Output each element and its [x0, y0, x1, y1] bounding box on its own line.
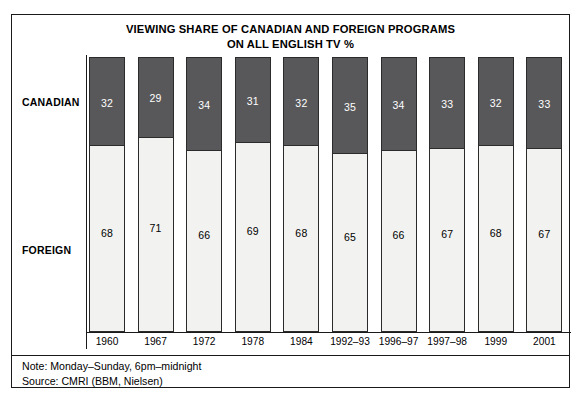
- bar-value-label: 67: [441, 228, 453, 240]
- bar-value-label: 32: [295, 97, 307, 109]
- bar-segment-foreign[interactable]: 68: [283, 146, 319, 332]
- x-axis-tick-label: 1972: [180, 336, 228, 347]
- bar-value-label: 32: [101, 97, 113, 109]
- bar-value-label: 68: [490, 227, 502, 239]
- bar-segment-canadian[interactable]: 29: [138, 57, 174, 138]
- series-label-canadian: CANADIAN: [22, 96, 80, 108]
- x-axis-tick-label: 1996–97: [375, 336, 423, 347]
- bar-segment-foreign[interactable]: 68: [89, 146, 125, 332]
- x-axis-tick-label: 1999: [472, 336, 520, 347]
- x-axis-tick-label: 1997–98: [423, 336, 471, 347]
- chart-frame: VIEWING SHARE OF CANADIAN AND FOREIGN PR…: [11, 14, 570, 388]
- series-label-foreign: FOREIGN: [22, 244, 71, 256]
- bar-segment-foreign[interactable]: 67: [429, 149, 465, 332]
- bar-segment-canadian[interactable]: 34: [381, 57, 417, 151]
- footer-divider: [12, 355, 569, 356]
- bar-value-label: 69: [247, 225, 259, 237]
- footer-source: Source: CMRI (BBM, Nielsen): [22, 374, 201, 389]
- bar-value-label: 68: [295, 227, 307, 239]
- bar-value-label: 34: [393, 99, 405, 111]
- x-axis-tick-label: 2001: [520, 336, 568, 347]
- x-axis-tick-label: 1960: [83, 336, 131, 347]
- x-axis-tick-label: 1967: [132, 336, 180, 347]
- bar-segment-canadian[interactable]: 32: [283, 57, 319, 146]
- bar-column[interactable]: 2971: [138, 57, 174, 332]
- y-axis-line: [86, 55, 87, 349]
- bar-column[interactable]: 3367: [526, 57, 562, 332]
- bar-column[interactable]: 3268: [478, 57, 514, 332]
- chart-title-line-2: ON ALL ENGLISH TV %: [12, 37, 569, 52]
- bar-segment-foreign[interactable]: 67: [526, 149, 562, 332]
- bar-column[interactable]: 3565: [332, 57, 368, 332]
- bar-value-label: 32: [490, 97, 502, 109]
- x-axis-tick-label: 1978: [229, 336, 277, 347]
- bar-column[interactable]: 3268: [89, 57, 125, 332]
- bar-segment-canadian[interactable]: 32: [478, 57, 514, 146]
- bar-value-label: 29: [150, 92, 162, 104]
- bar-column[interactable]: 3367: [429, 57, 465, 332]
- footer-notes: Note: Monday–Sunday, 6pm–midnight Source…: [22, 359, 201, 388]
- bar-value-label: 66: [198, 229, 210, 241]
- bar-segment-canadian[interactable]: 35: [332, 57, 368, 154]
- bar-value-label: 67: [538, 228, 550, 240]
- bar-value-label: 34: [198, 99, 210, 111]
- bar-value-label: 35: [344, 101, 356, 113]
- chart-title-line-1: VIEWING SHARE OF CANADIAN AND FOREIGN PR…: [12, 22, 569, 37]
- bar-segment-canadian[interactable]: 34: [186, 57, 222, 151]
- plot-area: 3268297134663169326835653466336732683367: [89, 57, 563, 332]
- bar-segment-foreign[interactable]: 71: [138, 138, 174, 332]
- bar-segment-foreign[interactable]: 66: [186, 151, 222, 332]
- x-axis-line: [86, 332, 571, 333]
- bar-value-label: 33: [538, 98, 550, 110]
- x-axis-tick-label: 1984: [277, 336, 325, 347]
- footer-note: Note: Monday–Sunday, 6pm–midnight: [22, 359, 201, 374]
- bar-segment-foreign[interactable]: 66: [381, 151, 417, 332]
- bar-column[interactable]: 3466: [186, 57, 222, 332]
- x-axis-tick-labels: 196019671972197819841992–931996–971997–9…: [89, 336, 563, 352]
- bar-value-label: 68: [101, 227, 113, 239]
- bar-column[interactable]: 3466: [381, 57, 417, 332]
- bar-segment-foreign[interactable]: 69: [235, 143, 271, 332]
- bar-value-label: 33: [441, 98, 453, 110]
- bar-value-label: 65: [344, 231, 356, 243]
- bar-segment-canadian[interactable]: 31: [235, 57, 271, 143]
- chart-title: VIEWING SHARE OF CANADIAN AND FOREIGN PR…: [12, 22, 569, 52]
- bar-column[interactable]: 3169: [235, 57, 271, 332]
- bar-segment-foreign[interactable]: 68: [478, 146, 514, 332]
- bar-segment-canadian[interactable]: 33: [429, 57, 465, 149]
- bar-segment-canadian[interactable]: 32: [89, 57, 125, 146]
- bar-value-label: 71: [150, 222, 162, 234]
- bar-column[interactable]: 3268: [283, 57, 319, 332]
- x-axis-tick-label: 1992–93: [326, 336, 374, 347]
- bar-value-label: 31: [247, 95, 259, 107]
- bar-segment-foreign[interactable]: 65: [332, 154, 368, 332]
- bar-value-label: 66: [393, 229, 405, 241]
- bar-segment-canadian[interactable]: 33: [526, 57, 562, 149]
